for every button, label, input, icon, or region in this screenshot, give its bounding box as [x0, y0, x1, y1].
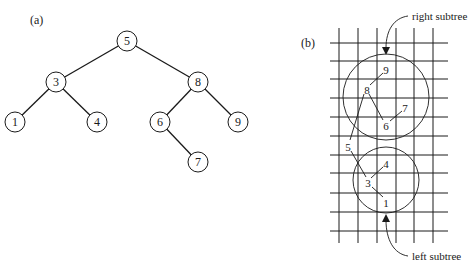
- panel-a-tree: (a) 5 3 8 1 4: [5, 13, 248, 172]
- tree-node-4: 4: [87, 112, 107, 132]
- point-5: 5: [345, 141, 351, 153]
- tree-node-6: 6: [150, 112, 170, 132]
- panel-b-grid-partition: (b): [301, 10, 467, 262]
- node-label: 1: [12, 115, 18, 129]
- point-9: 9: [383, 64, 389, 76]
- node-label: 5: [124, 34, 130, 48]
- tree-node-8: 8: [188, 72, 208, 92]
- node-label: 8: [195, 75, 201, 89]
- grid: [330, 28, 448, 243]
- point-3: 3: [365, 177, 371, 189]
- left-subtree-annotation: left subtree: [382, 214, 461, 262]
- edge-5-3: [56, 41, 127, 82]
- right-subtree-label: right subtree: [412, 10, 467, 22]
- panel-a-label: (a): [30, 13, 43, 27]
- node-label: 7: [195, 155, 201, 169]
- tree-node-1: 1: [5, 112, 25, 132]
- tree-edges: [15, 41, 238, 162]
- point-6: 6: [383, 120, 389, 132]
- node-label: 3: [53, 75, 59, 89]
- point-7: 7: [402, 102, 408, 114]
- panel-b-label: (b): [301, 36, 315, 50]
- tree-node-5: 5: [117, 31, 137, 51]
- point-8: 8: [364, 84, 370, 96]
- right-subtree-annotation: right subtree: [382, 10, 467, 55]
- tree-node-3: 3: [46, 72, 66, 92]
- left-subtree-label: left subtree: [412, 250, 461, 262]
- tree-node-9: 9: [228, 112, 248, 132]
- node-label: 9: [235, 115, 241, 129]
- edge-5-8: [127, 41, 198, 82]
- tree-node-7: 7: [188, 152, 208, 172]
- figure: (a) 5 3 8 1 4: [0, 0, 470, 270]
- point-4: 4: [383, 158, 389, 170]
- node-label: 6: [157, 115, 163, 129]
- node-label: 4: [94, 115, 100, 129]
- left-subtree-arrow: [386, 220, 408, 256]
- point-1: 1: [383, 197, 389, 209]
- arrowhead-up-icon: [382, 214, 390, 222]
